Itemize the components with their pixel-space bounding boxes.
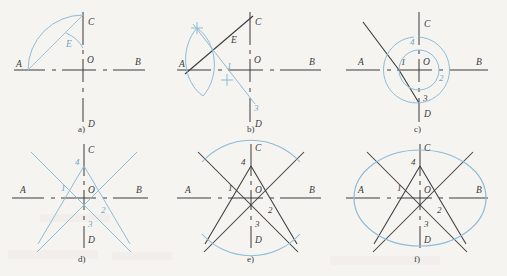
- line-a-e-c: [185, 16, 253, 74]
- label-point-1: 1: [228, 184, 233, 193]
- label-point-4: 4: [75, 158, 80, 167]
- label-point-4: 4: [241, 158, 246, 167]
- label-point-3: 3: [254, 104, 259, 113]
- panel-e: A B C D O 4 1 2 3 e): [163, 136, 343, 276]
- panel-caption-e: e): [247, 254, 254, 264]
- panel-d: A B C D O 4 1 2 3 d): [0, 136, 170, 276]
- label-point-2: 2: [437, 206, 442, 215]
- label-point-2: 2: [101, 206, 106, 215]
- label-d-point: D: [424, 236, 431, 246]
- label-e-point: E: [231, 36, 237, 46]
- label-b-point: B: [309, 186, 315, 196]
- intersection-ticks: [191, 22, 233, 86]
- label-point-4: 4: [410, 38, 415, 47]
- bisector-arc-left: [186, 28, 203, 96]
- panel-caption-a: a): [78, 124, 85, 134]
- label-point-3: 3: [88, 220, 93, 229]
- label-d-point: D: [424, 110, 431, 120]
- label-c-point: C: [424, 20, 430, 30]
- label-b-point: B: [476, 186, 482, 196]
- label-d-point: D: [88, 236, 95, 246]
- label-b-point: B: [309, 58, 315, 68]
- label-point-1: 1: [227, 62, 232, 71]
- label-a-point: A: [358, 186, 364, 196]
- perpendicular-bisector: [193, 24, 255, 104]
- label-o-point: O: [255, 186, 262, 196]
- label-d-point: D: [88, 120, 95, 130]
- panel-caption-b: b): [247, 124, 255, 134]
- label-point-2: 2: [439, 74, 444, 83]
- label-point-1: 1: [397, 184, 402, 193]
- label-b-point: B: [135, 58, 141, 68]
- label-o-point: O: [424, 186, 431, 196]
- label-d-point: D: [255, 120, 262, 130]
- label-a-point: A: [20, 186, 26, 196]
- panel-caption-d: d): [78, 254, 86, 264]
- panel-caption-f: f): [414, 254, 420, 264]
- panel-c: A B C D O 4 1 2 3 c): [336, 0, 507, 140]
- label-d-point: D: [255, 236, 262, 246]
- label-c-point: C: [424, 144, 430, 154]
- label-a-point: A: [16, 60, 22, 70]
- label-o-point: O: [87, 56, 94, 66]
- label-o-point: O: [88, 186, 95, 196]
- label-a-point: A: [358, 58, 364, 68]
- label-a-point: A: [185, 186, 191, 196]
- label-o-point: O: [423, 58, 430, 68]
- label-point-3: 3: [424, 220, 429, 229]
- label-point-3: 3: [255, 220, 260, 229]
- label-point-1: 1: [61, 184, 66, 193]
- chord-ac: [28, 15, 83, 70]
- label-point-2: 2: [268, 206, 273, 215]
- label-point-1: 1: [401, 58, 406, 67]
- label-c-point: C: [255, 18, 261, 28]
- panel-b: A B C D O E 1 3 b): [163, 0, 343, 140]
- panel-f: A B C D O 4 1 2 3 f): [336, 136, 507, 276]
- label-e-point: E: [66, 40, 72, 50]
- label-c-point: C: [88, 146, 94, 156]
- label-point-4: 4: [411, 158, 416, 167]
- label-point-3: 3: [423, 94, 428, 103]
- label-c-point: C: [255, 144, 261, 154]
- panel-a: A B C D O E a): [0, 0, 170, 140]
- label-a-point: A: [179, 60, 185, 70]
- panel-caption-c: c): [414, 124, 421, 134]
- label-o-point: O: [254, 56, 261, 66]
- label-b-point: B: [476, 58, 482, 68]
- label-c-point: C: [88, 18, 94, 28]
- label-b-point: B: [136, 186, 142, 196]
- figure-sheet: A B C D O E a): [0, 0, 507, 276]
